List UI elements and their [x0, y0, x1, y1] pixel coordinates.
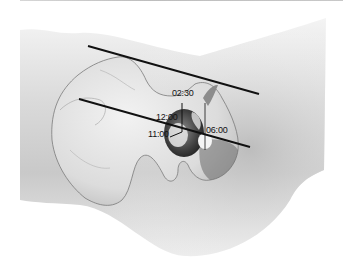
hip-anatomy-figure [0, 0, 343, 270]
label-0230: 02:30 [172, 89, 194, 98]
label-0600: 06:00 [206, 126, 228, 135]
label-1100: 11:00 [148, 130, 169, 139]
label-1200: 12:00 [156, 113, 178, 122]
